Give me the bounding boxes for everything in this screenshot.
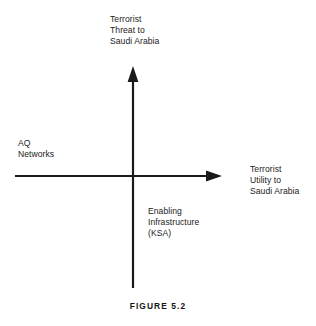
annotation-aq-networks: AQ Networks xyxy=(18,138,54,160)
annotation-enabling-infrastructure: Enabling Infrastructure (KSA) xyxy=(148,206,199,240)
quadrant-axes-diagram xyxy=(0,0,316,326)
x-axis-label: Terrorist Utility to Saudi Arabia xyxy=(250,164,299,198)
arrow-right-icon xyxy=(206,171,222,182)
figure-caption: FIGURE 5.2 xyxy=(0,301,316,311)
y-axis-label: Terrorist Threat to Saudi Arabia xyxy=(110,14,159,48)
figure-container: Terrorist Threat to Saudi Arabia AQ Netw… xyxy=(0,0,316,326)
arrow-up-icon xyxy=(128,66,139,82)
